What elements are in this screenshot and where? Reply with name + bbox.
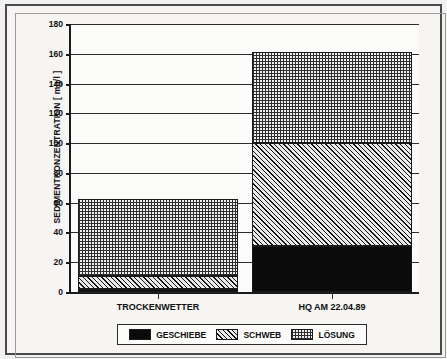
y-axis-tick [66,84,71,86]
y-axis-tick [66,203,71,205]
legend-swatch-icon [129,329,151,340]
chart-legend: GESCHIEBESCHWEBLÖSUNG [117,324,367,345]
plot-area: 020406080100120140160180TROCKENWETTERHQ … [69,24,419,294]
scanned-page: SEDIMENTKONZENTRATION [ mg/l ] 020406080… [0,0,447,359]
legend-item-geschiebe: GESCHIEBE [129,329,206,340]
x-axis-category-label: HQ AM 22.04.89 [298,302,365,312]
x-axis-tick [332,292,333,299]
y-gridline [71,24,419,25]
legend-label: LÖSUNG [318,330,354,340]
y-axis-tick [66,143,71,145]
x-axis-tick [158,292,159,299]
y-axis-tick [66,173,71,175]
legend-item-lösung: LÖSUNG [291,329,354,340]
bar-1 [78,199,238,292]
y-axis-tick [66,232,71,234]
y-axis-tick [66,24,71,26]
legend-label: SCHWEB [243,330,281,340]
x-axis-category-label: TROCKENWETTER [117,302,200,312]
y-axis-tick-label: 0 [58,287,63,297]
y-axis-tick [66,262,71,264]
bar-segment-lösung [252,52,412,143]
legend-swatch-icon [291,329,313,340]
bar-segment-lösung [78,199,238,276]
y-axis-tick-label: 80 [54,168,63,178]
y-axis-tick-label: 180 [49,19,63,29]
y-axis-tick-label: 20 [54,257,63,267]
y-axis-tick-label: 40 [54,227,63,237]
bar-2 [252,52,412,292]
legend-swatch-icon [216,329,238,340]
page-outer-frame: SEDIMENTKONZENTRATION [ mg/l ] 020406080… [5,4,442,355]
y-axis-tick-label: 120 [49,108,63,118]
y-axis-tick [66,113,71,115]
y-axis-tick [66,292,71,294]
bar-segment-schweb [78,276,238,289]
legend-label: GESCHIEBE [156,330,206,340]
bar-segment-schweb [252,143,412,246]
y-axis-tick-label: 140 [49,79,63,89]
y-axis-tick-label: 60 [54,198,63,208]
legend-item-schweb: SCHWEB [216,329,281,340]
y-axis-tick [66,54,71,56]
chart-figure: SEDIMENTKONZENTRATION [ mg/l ] 020406080… [21,18,440,352]
bar-segment-geschiebe [252,246,412,292]
y-axis-tick-label: 100 [49,138,63,148]
y-axis-tick-label: 160 [49,49,63,59]
